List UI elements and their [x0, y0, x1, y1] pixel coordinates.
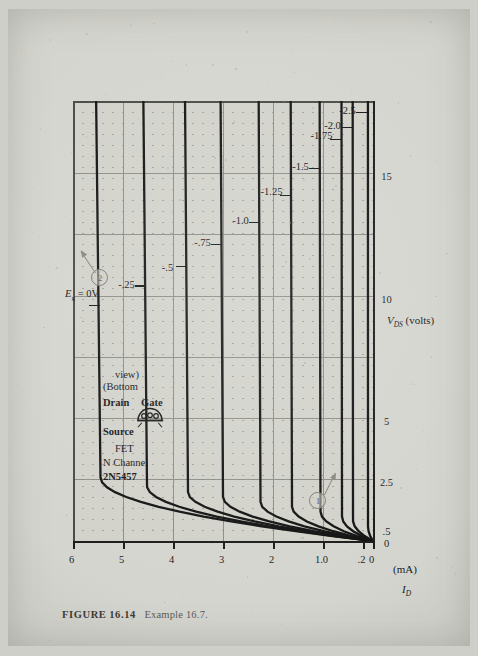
y-tick-mark — [73, 543, 75, 549]
legend-device: FET — [115, 443, 134, 454]
curve--1.0 — [259, 101, 373, 541]
paper-speck — [229, 273, 230, 274]
x-axis-label: VDS (volts) — [387, 314, 434, 329]
paper-speck — [139, 507, 140, 508]
legend-pin-drain: Drain — [103, 397, 129, 408]
y-axis-unit: (mA) — [393, 563, 417, 575]
y-tick-1p0: 1.0 — [310, 554, 334, 565]
curve-label-leader — [280, 195, 291, 196]
y-tick-mark — [363, 543, 365, 549]
paper-speck — [357, 297, 358, 298]
x-tick-p5: .5 — [375, 525, 399, 536]
curve-label-leader — [211, 244, 222, 245]
paper-speck — [442, 627, 443, 628]
x-tick-2p5: 2.5 — [375, 476, 399, 487]
curve-label--.25: -.25 — [118, 279, 135, 290]
caption-label: FIGURE — [62, 609, 106, 620]
curve--2.5 — [368, 101, 373, 541]
legend-pin-source: Source — [103, 426, 134, 437]
y-tick-mark — [173, 543, 175, 549]
paper-speck — [86, 33, 88, 35]
figure-caption: FIGURE 16.14 Example 16.7. — [62, 609, 208, 620]
paper-speck — [50, 39, 51, 40]
paper-speck — [21, 48, 22, 49]
curve-label--1.0: -1.0 — [232, 215, 249, 226]
curve-label-leader — [356, 112, 367, 113]
paper-speck — [285, 261, 287, 263]
paper-sheet: 2N5457 N Channel FET Source Drain Gate (… — [8, 9, 470, 646]
paper-speck — [460, 528, 461, 529]
paper-speck — [186, 64, 188, 66]
paper-speck — [131, 618, 133, 620]
y-axis-sub: D — [406, 589, 411, 598]
paper-speck — [40, 128, 41, 129]
paper-speck — [213, 332, 214, 333]
y-tick-5: 5 — [110, 554, 134, 565]
y-tick-4: 4 — [160, 554, 184, 565]
x-tick-10: 10 — [375, 293, 399, 304]
paper-speck — [173, 480, 175, 482]
curve-label-Eg0V: Eg = 0V — [65, 288, 99, 302]
paper-speck — [43, 629, 44, 630]
paper-speck — [235, 68, 237, 70]
paper-speck — [160, 74, 161, 75]
y-tick-6: 6 — [60, 554, 84, 565]
paper-speck — [430, 21, 431, 22]
callout-2-label: 2 — [97, 273, 102, 283]
curve-label--1.5: -1.5 — [292, 162, 309, 173]
paper-speck — [153, 23, 154, 24]
y-tick-mark — [273, 543, 275, 549]
curve-label--2.5: -2.5 — [339, 105, 356, 116]
curve--1.5 — [320, 101, 373, 541]
y-axis-label: ID — [402, 583, 411, 598]
paper-speck — [379, 272, 381, 274]
curve-label--2.0: -2.0 — [324, 120, 341, 131]
paper-speck — [233, 121, 234, 122]
curve-label-leader — [249, 222, 260, 223]
curve-label-leader — [89, 305, 100, 306]
paper-speck — [182, 353, 183, 354]
paper-speck — [304, 362, 306, 364]
plot-area: 2N5457 N Channel FET Source Drain Gate (… — [73, 101, 375, 543]
callout-1-label: 1 — [315, 496, 320, 506]
curve--.5 — [185, 101, 373, 541]
curve--2.0 — [353, 101, 373, 541]
paper-speck — [294, 72, 295, 73]
paper-speck — [335, 185, 337, 187]
y-tick-2: 2 — [260, 554, 284, 565]
paper-speck — [309, 258, 310, 259]
paper-speck — [238, 457, 239, 458]
paper-speck — [190, 446, 191, 447]
curve-label--.75: -.75 — [194, 237, 211, 248]
paper-speck — [183, 597, 184, 598]
x-axis-unit: (volts) — [406, 314, 435, 326]
paper-speck — [152, 529, 153, 530]
paper-speck — [212, 64, 214, 66]
paper-speck — [167, 167, 169, 169]
scanned-page: 2N5457 N Channel FET Source Drain Gate (… — [0, 0, 478, 656]
paper-speck — [213, 618, 214, 619]
paper-speck — [233, 301, 234, 302]
paper-speck — [194, 492, 196, 494]
paper-speck — [194, 334, 195, 335]
rotated-chart-container: 2N5457 N Channel FET Source Drain Gate (… — [47, 67, 447, 607]
paper-speck — [350, 204, 351, 205]
paper-speck — [43, 327, 45, 329]
x-tick-15: 15 — [375, 171, 399, 182]
device-legend: 2N5457 N Channel FET Source Drain Gate (… — [101, 369, 217, 475]
curve-label-leader — [341, 127, 352, 128]
curve-label-leader — [176, 266, 187, 267]
x-axis-symbol: V — [387, 314, 394, 326]
legend-part-number: 2N5457 — [103, 471, 137, 482]
curve-label--.5: -.5 — [162, 262, 173, 273]
paper-speck — [32, 233, 33, 234]
paper-speck — [174, 382, 175, 383]
to92-bottom-view-icon — [135, 401, 165, 431]
paper-speck — [369, 329, 371, 331]
paper-speck — [127, 325, 128, 326]
figure-16-14: 2N5457 N Channel FET Source Drain Gate (… — [8, 9, 478, 656]
paper-speck — [202, 360, 203, 361]
paper-speck — [171, 61, 172, 62]
paper-speck — [436, 161, 437, 162]
paper-speck — [83, 318, 84, 319]
